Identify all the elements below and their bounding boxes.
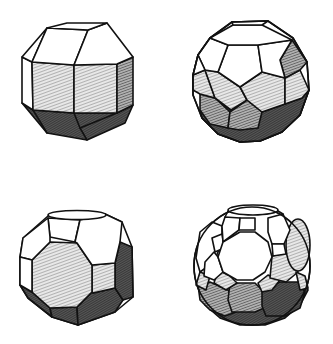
polyhedra-figure — [0, 0, 333, 344]
right-square-upper — [272, 244, 286, 256]
truncated-icosidodecahedron — [194, 205, 310, 325]
top-octagon — [48, 211, 106, 220]
bottom-center-dark — [50, 307, 78, 325]
bottom-center-decagon — [228, 283, 264, 312]
left-square — [20, 257, 32, 292]
right-square — [92, 263, 115, 293]
belt-front-left-face — [32, 62, 74, 113]
rhombicosidodecahedron — [193, 21, 309, 142]
belt-right-face — [117, 57, 133, 113]
belt-front-right-face — [74, 64, 117, 113]
top-square — [239, 218, 255, 230]
polyhedra-drawing — [0, 0, 333, 344]
rhombicuboctahedron — [22, 23, 133, 140]
truncated-cuboctahedron — [20, 211, 133, 326]
